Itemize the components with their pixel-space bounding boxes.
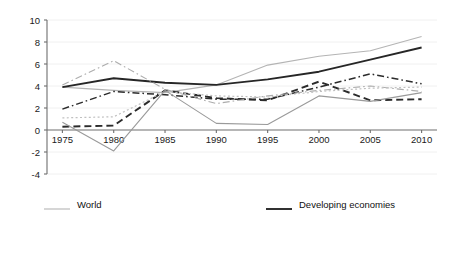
x-axis-tick-label: 2010 [411, 134, 432, 145]
series-line-0 [62, 37, 421, 93]
series-line-1 [62, 48, 421, 88]
legend-label: Developing economies [299, 199, 395, 210]
y-axis-tick-label: 6 [35, 59, 40, 70]
x-axis-tick-label: 1995 [257, 134, 278, 145]
x-axis-tick-label: 1975 [52, 134, 73, 145]
series-line-5 [62, 87, 421, 118]
y-axis-tick-label: 0 [35, 125, 40, 136]
x-axis-tick-label: 1990 [206, 134, 227, 145]
y-axis-tick-label: 8 [35, 37, 40, 48]
x-axis-tick-label: 2000 [308, 134, 329, 145]
x-axis-tick-label: 2005 [360, 134, 381, 145]
y-axis-tick-label: -4 [32, 169, 40, 180]
series-line-2 [62, 82, 421, 127]
y-axis-tick-label: 2 [35, 103, 40, 114]
legend-swatch-icon [44, 200, 70, 210]
legend-item: World [44, 196, 266, 213]
chart-legend: WorldDeveloping economiesDeveloped econo… [44, 196, 444, 268]
x-axis-tick-label: 1980 [103, 134, 124, 145]
x-axis-tick-label: 1985 [154, 134, 175, 145]
legend-swatch-icon [266, 200, 292, 210]
legend-label: World [77, 199, 102, 210]
legend-item: Developing economies [266, 196, 450, 213]
y-axis-tick-label: -2 [32, 147, 40, 158]
y-axis-tick-label: 10 [29, 15, 40, 26]
y-axis-tick-label: 4 [35, 81, 40, 92]
